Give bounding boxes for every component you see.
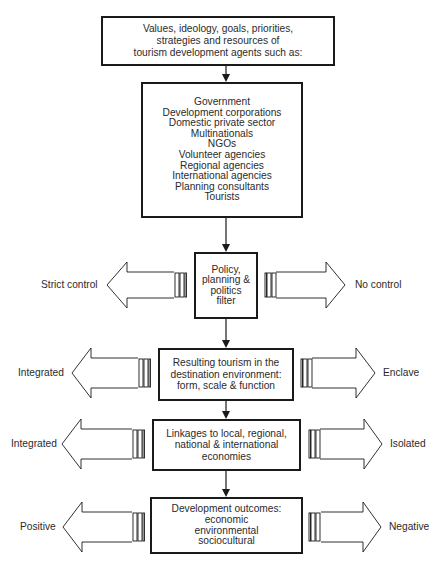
spectrum-arrow-tourism-right	[301, 348, 375, 398]
spectrum-arrow-linkages-right	[309, 419, 382, 469]
label-integrated-linkages: Integrated	[11, 438, 57, 450]
spectrum-arrow-outcomes-right	[309, 502, 381, 552]
spectrum-arrow-outcomes-left	[63, 502, 145, 552]
outcomes-line: economic	[205, 515, 249, 526]
label-strict-control: Strict control	[41, 279, 98, 291]
label-integrated-tourism: Integrated	[18, 367, 64, 379]
agents-list-box: Government Development corporations Dome…	[141, 82, 303, 218]
label-positive: Positive	[20, 521, 56, 533]
label-enclave: Enclave	[383, 367, 419, 379]
spectrum-arrow-linkages-left	[62, 419, 145, 469]
linkages-line: Linkages to local, regional,	[166, 428, 287, 439]
linkages-box: Linkages to local, regional, national & …	[152, 419, 301, 471]
filter-box: Policy, planning & politics filter	[194, 252, 258, 319]
agents-intro-line: Values, ideology, goals, priorities,	[143, 23, 293, 35]
resulting-tourism-line: form, scale & function	[177, 380, 275, 391]
outcomes-box: Development outcomes: economic environme…	[150, 497, 303, 554]
spectrum-arrow-filter-right	[265, 262, 345, 308]
resulting-tourism-box: Resulting tourism in the destination env…	[158, 348, 294, 401]
outcomes-line: sociocultural	[198, 536, 255, 547]
label-no-control: No control	[355, 279, 401, 291]
agent-item: Tourists	[204, 192, 239, 203]
linkages-line: economies	[202, 451, 251, 462]
filter-line: filter	[216, 296, 235, 306]
agents-intro-line: strategies and resources of	[157, 35, 280, 47]
resulting-tourism-line: Resulting tourism in the	[173, 357, 279, 368]
filter-line: planning &	[202, 275, 250, 285]
resulting-tourism-line: destination environment:	[171, 369, 282, 380]
label-isolated: Isolated	[390, 438, 426, 450]
linkages-line: national & international	[175, 439, 279, 450]
spectrum-arrow-tourism-left	[72, 348, 151, 398]
agents-intro-box: Values, ideology, goals, priorities, str…	[101, 16, 335, 66]
label-negative: Negative	[389, 521, 429, 533]
agents-intro-line: tourism development agents such as:	[134, 47, 303, 59]
spectrum-arrow-filter-left	[107, 262, 187, 308]
agent-item: Volunteer agencies	[179, 150, 266, 161]
